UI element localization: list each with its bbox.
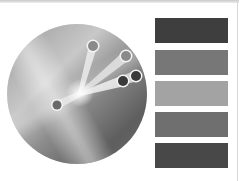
dial-icon <box>0 0 150 181</box>
knob-2-icon <box>121 51 131 61</box>
knob-4-icon <box>118 76 128 86</box>
swatch-2 <box>155 50 228 75</box>
swatch-1 <box>155 18 228 43</box>
knob-3-icon <box>131 71 141 81</box>
metallic-dial-illustration <box>0 0 150 181</box>
swatch-4 <box>155 112 228 137</box>
knob-5-icon <box>53 101 62 110</box>
swatch-3 <box>155 81 228 106</box>
swatch-5 <box>155 143 228 168</box>
knob-1-icon <box>88 41 98 51</box>
right-border <box>237 0 238 181</box>
